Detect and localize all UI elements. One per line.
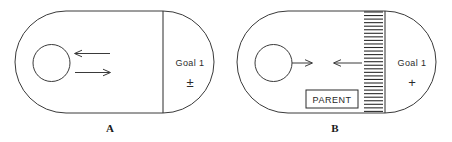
lewin-field-diagram: Goal 1 ± A PARENT Goal 1	[0, 0, 452, 142]
panel-b-caption-letter: B	[331, 122, 339, 134]
panel-b-goal-label: Goal 1	[398, 58, 427, 68]
panel-a-caption-letter: A	[106, 122, 114, 134]
panel-b-parent-box: PARENT	[306, 90, 358, 108]
panel-a-approach-arrow	[75, 50, 111, 57]
panel-a-goal-label: Goal 1	[176, 58, 205, 68]
panel-a: Goal 1 ± A	[15, 11, 214, 134]
panel-a-person-circle	[33, 45, 70, 82]
panel-b-barrier-resistance-arrow	[334, 60, 363, 67]
panel-b-barrier-hatching	[364, 12, 383, 111]
panel-b-parent-label: PARENT	[313, 95, 352, 105]
panel-b-approach-arrow	[292, 60, 313, 67]
panel-a-avoid-arrow	[75, 69, 111, 76]
panel-b-goal-valence-symbol: +	[408, 75, 416, 90]
panel-b-person-circle	[255, 45, 292, 82]
figure-container: Goal 1 ± A PARENT Goal 1	[0, 0, 452, 142]
panel-b: PARENT Goal 1 + B	[237, 11, 436, 134]
panel-a-goal-valence-symbol: ±	[186, 75, 193, 90]
